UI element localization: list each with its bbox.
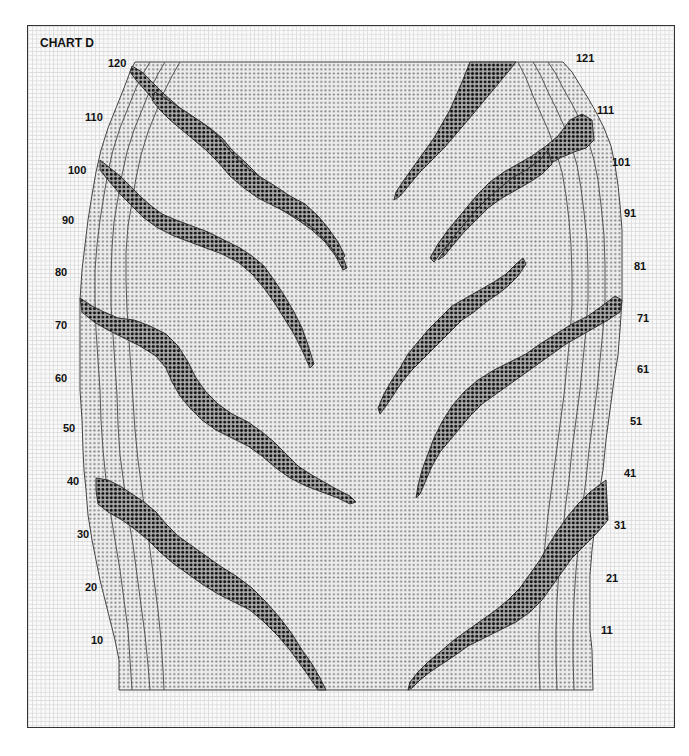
- right-row-label: 91: [624, 207, 636, 219]
- left-row-label: 100: [68, 164, 86, 176]
- right-row-label: 81: [634, 260, 646, 272]
- right-row-label: 101: [612, 156, 630, 168]
- right-row-label: 51: [630, 415, 642, 427]
- right-row-label: 11: [601, 624, 613, 636]
- left-row-label: 80: [55, 266, 67, 278]
- left-row-label: 110: [85, 111, 103, 123]
- left-row-label: 70: [55, 319, 67, 331]
- right-row-label: 111: [597, 104, 614, 116]
- left-row-label: 20: [85, 581, 97, 593]
- left-row-label: 60: [55, 372, 67, 384]
- left-row-label: 120: [108, 57, 126, 69]
- right-row-label: 21: [606, 572, 618, 584]
- right-row-label: 31: [614, 519, 626, 531]
- left-row-label: 10: [91, 634, 103, 646]
- right-row-label: 61: [637, 363, 649, 375]
- left-row-label: 90: [62, 214, 74, 226]
- left-row-label: 40: [67, 475, 79, 487]
- knitting-chart: [0, 0, 689, 756]
- right-row-label: 121: [576, 52, 594, 64]
- right-row-label: 41: [624, 467, 636, 479]
- right-row-label: 71: [637, 312, 649, 324]
- left-row-label: 50: [63, 422, 75, 434]
- left-row-label: 30: [77, 528, 89, 540]
